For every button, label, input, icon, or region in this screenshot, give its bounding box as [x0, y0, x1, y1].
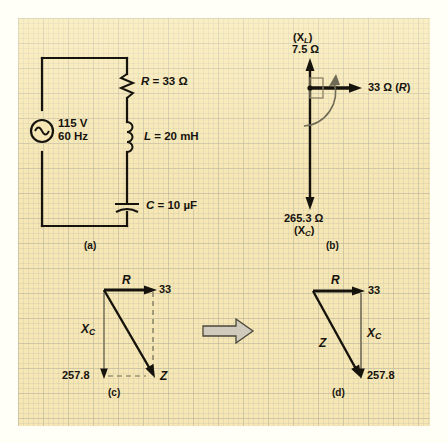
panel-c-xc-value: 257.8 [62, 369, 90, 381]
ac-source-icon [31, 120, 53, 142]
panel-d-vectors [313, 286, 365, 379]
capacitor-icon [115, 204, 139, 212]
source-label: 115 V 60 Hz [58, 117, 88, 143]
panel-d-z-label: Z [319, 336, 326, 350]
panel-c-vectors [100, 285, 157, 379]
resistor-label: R = 33 Ω [141, 75, 188, 87]
panel-d-r-label: R [331, 273, 340, 287]
arrowhead-xl-up [306, 58, 315, 71]
arrowhead-rotation [329, 74, 340, 86]
inductor-icon [127, 122, 133, 152]
panel-b-xc-name: (XC) [294, 224, 314, 238]
arrowhead-r-right [349, 83, 362, 93]
panel-b-xl-value: 7.5 Ω [292, 43, 319, 55]
panel-d-r-value: 33 [368, 284, 380, 296]
panel-d-caption: (d) [332, 387, 345, 398]
panel-c-arrowhead-r [144, 285, 157, 294]
panel-c-xc-label: XC [81, 322, 95, 337]
rightward-block-arrow [203, 319, 253, 343]
panel-c-z-label: Z [160, 369, 167, 383]
panel-c-arrowhead-xc [100, 369, 108, 380]
figure-container: R = 33 Ω L = 20 mH C = 10 µF 115 V 60 Hz… [0, 0, 448, 443]
panel-d-xc-label: XC [367, 326, 381, 341]
panel-d-arrowhead-r [352, 286, 365, 295]
inductor-label: L = 20 mH [144, 130, 199, 142]
arrowhead-xc-down [306, 197, 315, 210]
panel-c-r-label: R [122, 273, 131, 287]
panel-c-r-value: 33 [159, 283, 171, 295]
origin-dot [307, 85, 312, 90]
capacitor-label: C = 10 µF [146, 199, 197, 211]
panel-b-caption: (b) [326, 240, 339, 251]
panel-d-xc-value: 257.8 [367, 369, 395, 381]
resistor-icon [121, 74, 133, 98]
panel-b-r-label: 33 Ω (R) [368, 81, 410, 93]
panel-b-xc-value: 265.3 Ω [284, 212, 323, 224]
panel-c-caption: (c) [108, 387, 120, 398]
panel-a-caption: (a) [84, 240, 96, 251]
panel-b-axes [304, 58, 362, 210]
panel-c-arrowhead-z [145, 364, 155, 378]
panel-d-arrowhead-z [351, 365, 361, 378]
